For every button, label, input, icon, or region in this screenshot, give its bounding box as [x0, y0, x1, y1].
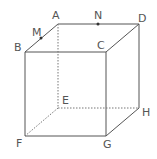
label-m: M	[32, 26, 42, 39]
label-c: C	[97, 39, 105, 52]
edge-gh	[106, 108, 139, 136]
label-n: N	[94, 9, 102, 22]
label-a: A	[52, 9, 60, 22]
edge-ef-hidden	[25, 108, 58, 136]
label-f: F	[16, 137, 22, 150]
label-h: H	[142, 106, 150, 119]
label-g: G	[103, 138, 112, 151]
label-d: D	[138, 12, 146, 25]
point-n-dot	[97, 23, 100, 26]
edge-cd	[106, 24, 139, 52]
label-b: B	[14, 41, 22, 54]
cube-diagram: A N D M B C E H F G	[0, 0, 157, 159]
label-e: E	[62, 94, 69, 107]
